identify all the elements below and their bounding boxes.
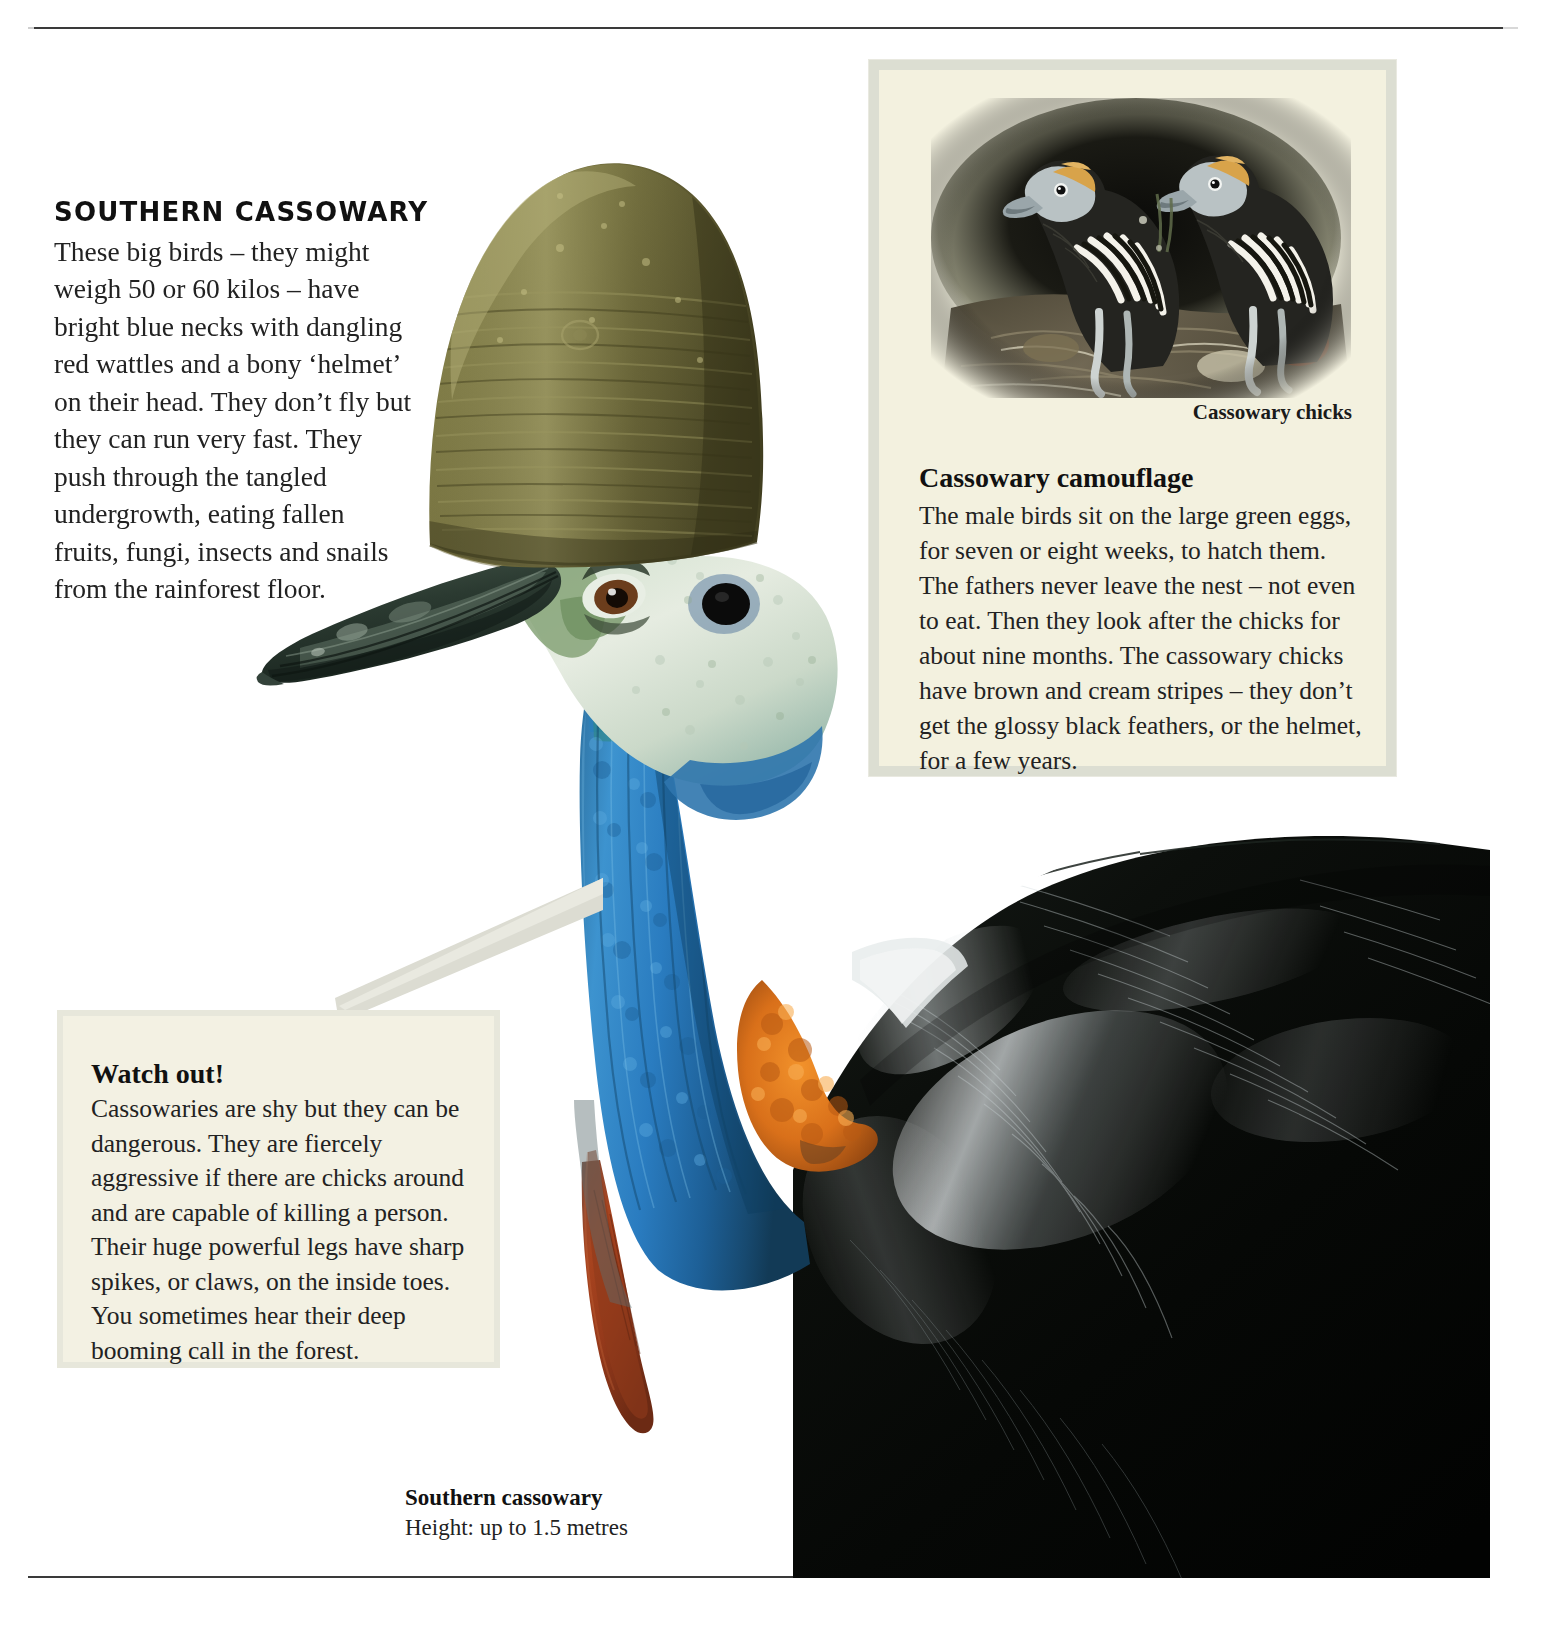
watch-out-panel: Watch out! Cassowaries are shy but they … bbox=[57, 1010, 500, 1368]
cassowary-chicks-photo bbox=[931, 98, 1351, 398]
bird-caption-title: Southern cassowary bbox=[405, 1483, 628, 1513]
intro-text-block: SOUTHERN CASSOWARY These big birds – the… bbox=[54, 198, 414, 608]
camouflage-heading: Cassowary camouflage bbox=[919, 462, 1371, 494]
watch-out-paragraph: Cassowaries are shy but they can be dang… bbox=[91, 1092, 474, 1368]
camouflage-paragraph: The male birds sit on the large green eg… bbox=[919, 498, 1371, 778]
cassowary-wattles bbox=[582, 1150, 654, 1433]
cassowary-nape-patch bbox=[737, 980, 878, 1172]
callout-pointer-wedge bbox=[335, 876, 605, 1026]
camouflage-text-block: Cassowary camouflage The male birds sit … bbox=[919, 462, 1371, 778]
cassowary-body-plumage bbox=[764, 836, 1496, 1584]
watch-out-heading: Watch out! bbox=[91, 1058, 474, 1090]
bird-caption-detail: Height: up to 1.5 metres bbox=[405, 1513, 628, 1543]
cassowary-ear-opening bbox=[688, 574, 760, 634]
page-title: SOUTHERN CASSOWARY bbox=[54, 198, 414, 227]
cassowary-camouflage-panel: Cassowary chicks Cassowary camouflage Th… bbox=[869, 60, 1396, 776]
intro-paragraph: These big birds – they might weigh 50 or… bbox=[54, 233, 414, 608]
chicks-caption: Cassowary chicks bbox=[879, 400, 1352, 425]
page-top-rule bbox=[28, 27, 1518, 29]
cassowary-casque-helmet bbox=[420, 140, 780, 583]
cassowary-face bbox=[500, 555, 838, 820]
page-bottom-rule bbox=[28, 1576, 1490, 1578]
page-canvas: SOUTHERN CASSOWARY These big birds – the… bbox=[0, 0, 1562, 1630]
bird-caption: Southern cassowary Height: up to 1.5 met… bbox=[405, 1483, 628, 1543]
cassowary-eye bbox=[579, 557, 650, 635]
